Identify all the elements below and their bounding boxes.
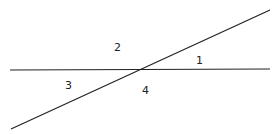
intersecting-lines-diagram: 1 2 3 4 (0, 0, 275, 134)
angle-label-1: 1 (196, 54, 203, 67)
angle-label-3: 3 (65, 79, 72, 92)
angle-label-4: 4 (142, 84, 149, 97)
angle-label-2: 2 (114, 41, 121, 54)
